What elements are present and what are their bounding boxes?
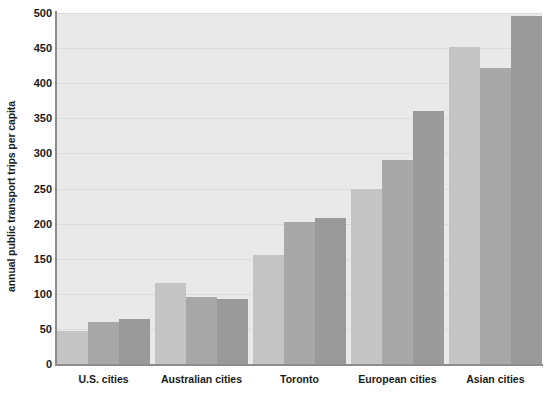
y-axis-tick-label: 0 xyxy=(18,358,52,370)
y-axis-tick-label: 350 xyxy=(18,112,52,124)
x-axis-tick-labels: U.S. citiesAustralian citiesTorontoEurop… xyxy=(57,370,542,388)
y-axis-tick-label: 100 xyxy=(18,288,52,300)
y-axis-tick-label: 50 xyxy=(18,323,52,335)
x-axis-tick-label: U.S. cities xyxy=(57,370,150,388)
bar[interactable] xyxy=(315,218,346,364)
y-axis-tick-label: 150 xyxy=(18,253,52,265)
x-axis-line xyxy=(55,364,543,366)
bar[interactable] xyxy=(119,319,150,364)
bar[interactable] xyxy=(217,299,248,364)
bar[interactable] xyxy=(511,16,542,364)
y-axis-tick-label: 300 xyxy=(18,147,52,159)
bar[interactable] xyxy=(449,47,480,364)
bar-group xyxy=(253,13,346,364)
bar-group xyxy=(57,13,150,364)
bar[interactable] xyxy=(284,222,315,365)
y-axis-tick-label: 200 xyxy=(18,218,52,230)
bar[interactable] xyxy=(351,189,382,365)
bar-group xyxy=(449,13,542,364)
x-axis-tick-label: Toronto xyxy=(253,370,346,388)
bar[interactable] xyxy=(88,322,119,364)
bar[interactable] xyxy=(413,111,444,364)
bar[interactable] xyxy=(480,68,511,364)
y-axis-tick-labels: 500450400350300250200150100500 xyxy=(18,13,52,364)
bar[interactable] xyxy=(57,331,88,364)
x-axis-tick-label: Australian cities xyxy=(155,370,248,388)
bars-layer xyxy=(57,13,542,364)
bar[interactable] xyxy=(382,160,413,364)
bar[interactable] xyxy=(186,297,217,364)
bar-group xyxy=(351,13,444,364)
y-axis-tick-label: 500 xyxy=(18,7,52,19)
bar-chart: annual public transport trips per capita… xyxy=(0,0,558,393)
bar-group xyxy=(155,13,248,364)
y-axis-tick-label: 250 xyxy=(18,183,52,195)
bar[interactable] xyxy=(155,283,186,364)
plot-area xyxy=(57,13,542,364)
bar[interactable] xyxy=(253,255,284,364)
x-axis-tick-label: European cities xyxy=(351,370,444,388)
y-axis-tick-label: 450 xyxy=(18,42,52,54)
y-axis-tick-label: 400 xyxy=(18,77,52,89)
x-axis-tick-label: Asian cities xyxy=(449,370,542,388)
